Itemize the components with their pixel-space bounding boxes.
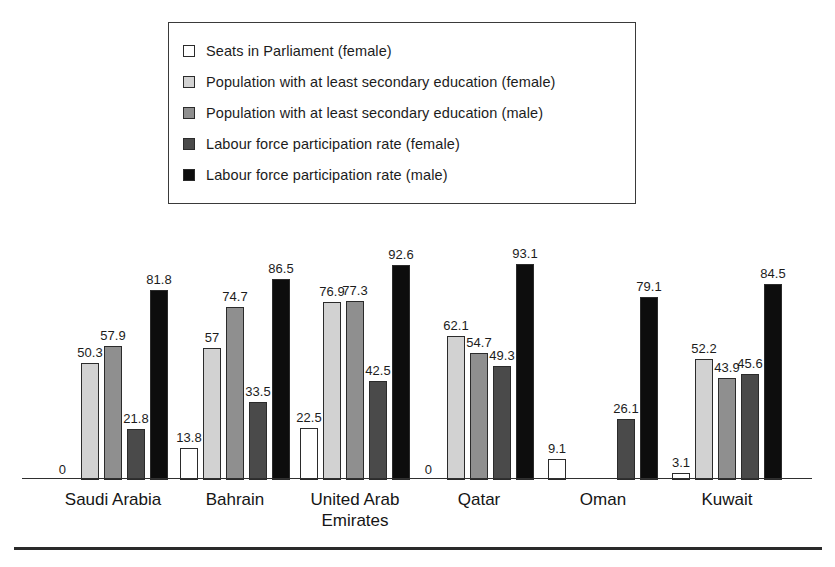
- bar-slot: 3.1: [672, 212, 690, 480]
- bar-slot: 62.1: [447, 212, 465, 480]
- bar: [81, 363, 99, 480]
- bar-slot: 50.3: [81, 212, 99, 480]
- legend-label-seats_parliament_female: Seats in Parliament (female): [206, 43, 392, 59]
- bar-value-label: 84.5: [760, 266, 785, 281]
- bar-slot: 0: [58, 212, 76, 480]
- legend-swatch-labour_force_female: [183, 138, 195, 150]
- bar-group: 9.126.179.1: [548, 210, 658, 480]
- x-axis-category-label: Kuwait: [642, 489, 812, 510]
- bar-slot: 92.6: [392, 212, 410, 480]
- bar-value-label: 57: [205, 330, 219, 345]
- bar-slot: 54.7: [470, 212, 488, 480]
- bar-slot: 43.9: [718, 212, 736, 480]
- bar: [493, 366, 511, 480]
- bar: [104, 346, 122, 480]
- chart-plot-area: 050.357.921.881.813.85774.733.586.522.57…: [0, 210, 835, 480]
- bar-slot: 77.3: [346, 212, 364, 480]
- bar-value-label: 21.8: [123, 411, 148, 426]
- bar-slot: 49.3: [493, 212, 511, 480]
- legend-label-secondary_education_female: Population with at least secondary educa…: [206, 74, 555, 90]
- bar-value-label: 79.1: [636, 279, 661, 294]
- bar-value-label: 74.7: [222, 289, 247, 304]
- bar-slot: 93.1: [516, 212, 534, 480]
- bar-slot: 74.7: [226, 212, 244, 480]
- legend-swatch-labour_force_male: [183, 169, 195, 181]
- bar-value-label: 33.5: [245, 384, 270, 399]
- bar-value-label: 45.6: [737, 356, 762, 371]
- bar: [516, 264, 534, 480]
- legend-item-labour_force_male: Labour force participation rate (male): [183, 159, 635, 190]
- bar-value-label: 22.5: [296, 410, 321, 425]
- bar-slot: 9.1: [548, 212, 566, 480]
- bar: [640, 297, 658, 481]
- bar-slot: 86.5: [272, 212, 290, 480]
- bar-slot: 33.5: [249, 212, 267, 480]
- bar: [272, 279, 290, 480]
- bar: [300, 428, 318, 480]
- bar-slot: 57.9: [104, 212, 122, 480]
- bar-value-label: 43.9: [714, 360, 739, 375]
- bar-value-label: 93.1: [512, 246, 537, 261]
- bar-slot: 76.9: [323, 212, 341, 480]
- bar-group: 062.154.749.393.1: [424, 210, 534, 480]
- bar-value-label: 86.5: [268, 261, 293, 276]
- legend-item-seats_parliament_female: Seats in Parliament (female): [183, 35, 635, 66]
- bar: [249, 402, 267, 480]
- bar-value-label: 42.5: [365, 363, 390, 378]
- bar: [548, 459, 566, 480]
- bar: [741, 374, 759, 480]
- bar-slot: 21.8: [127, 212, 145, 480]
- bar: [226, 307, 244, 480]
- bar-value-label: 62.1: [443, 318, 468, 333]
- chart-baseline-axis: [22, 478, 812, 479]
- legend-item-labour_force_female: Labour force participation rate (female): [183, 128, 635, 159]
- legend-swatch-secondary_education_female: [183, 76, 195, 88]
- bar-slot: 81.8: [150, 212, 168, 480]
- legend-swatch-seats_parliament_female: [183, 45, 195, 57]
- bar: [447, 336, 465, 480]
- legend-item-secondary_education_female: Population with at least secondary educa…: [183, 66, 635, 97]
- bar-slot: [571, 212, 589, 480]
- bar: [150, 290, 168, 480]
- bar-slot: 79.1: [640, 212, 658, 480]
- legend-label-labour_force_male: Labour force participation rate (male): [206, 167, 448, 183]
- bar-slot: 22.5: [300, 212, 318, 480]
- bar-slot: 42.5: [369, 212, 387, 480]
- bar-slot: 84.5: [764, 212, 782, 480]
- bar-value-label: 13.8: [176, 430, 201, 445]
- bar-value-label: 3.1: [672, 455, 690, 470]
- bar-group: 050.357.921.881.8: [58, 210, 168, 480]
- bar-slot: 52.2: [695, 212, 713, 480]
- legend-item-secondary_education_male: Population with at least secondary educa…: [183, 97, 635, 128]
- bar: [346, 301, 364, 480]
- bar-value-label: 26.1: [613, 401, 638, 416]
- bottom-divider-rule: [14, 547, 822, 550]
- bar: [718, 378, 736, 480]
- bar-value-label: 49.3: [489, 348, 514, 363]
- bar: [323, 302, 341, 480]
- bar: [470, 353, 488, 480]
- bar-slot: 57: [203, 212, 221, 480]
- bar-value-label: 52.2: [691, 341, 716, 356]
- bar: [695, 359, 713, 480]
- bar-value-label: 57.9: [100, 328, 125, 343]
- bar-slot: 26.1: [617, 212, 635, 480]
- bar-value-label: 76.9: [319, 284, 344, 299]
- bar-slot: 45.6: [741, 212, 759, 480]
- bar-value-label: 0: [425, 462, 432, 477]
- bar: [369, 381, 387, 480]
- bar-value-label: 54.7: [466, 335, 491, 350]
- bar: [617, 419, 635, 480]
- legend-label-secondary_education_male: Population with at least secondary educa…: [206, 105, 543, 121]
- bar: [180, 448, 198, 480]
- bar-value-label: 50.3: [77, 345, 102, 360]
- bar-slot: 0: [424, 212, 442, 480]
- bar-group: 3.152.243.945.684.5: [672, 210, 782, 480]
- bar-slot: 13.8: [180, 212, 198, 480]
- bar: [764, 284, 782, 480]
- bar-group: 13.85774.733.586.5: [180, 210, 290, 480]
- bar-value-label: 77.3: [342, 283, 367, 298]
- legend-label-labour_force_female: Labour force participation rate (female): [206, 136, 460, 152]
- bar-value-label: 9.1: [548, 441, 566, 456]
- bar-group: 22.576.977.342.592.6: [300, 210, 410, 480]
